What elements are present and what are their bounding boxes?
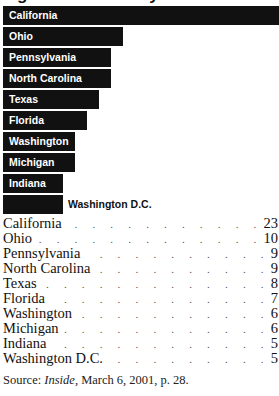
- bar-label: Pennsylvania: [9, 51, 76, 63]
- list-item-name: Texas: [3, 276, 41, 291]
- list-item-name: Florida: [3, 291, 49, 306]
- bar-row: Texas: [3, 90, 279, 109]
- list-item-name: Indiana: [3, 336, 50, 351]
- list-item-value: 7: [270, 291, 278, 306]
- bar-row: North Carolina: [3, 69, 279, 88]
- bar-label: Texas: [9, 93, 38, 105]
- leader-dots: . . . . . . . . . . . . . . . . . . . . …: [66, 217, 263, 231]
- leader-dots: . . . . . . . . . . . . . . . . . . . . …: [107, 352, 270, 366]
- bar-row: Pennsylvania: [3, 48, 279, 67]
- list-item: Indiana. . . . . . . . . . . . . . . . .…: [3, 336, 278, 351]
- list-item-name: Ohio: [3, 231, 36, 246]
- bar-row: California: [3, 6, 279, 25]
- list-item: Washington D.C.. . . . . . . . . . . . .…: [3, 351, 278, 366]
- list-item-name: Washington: [3, 306, 76, 321]
- leader-dots: . . . . . . . . . . . . . . . . . . . . …: [84, 247, 269, 261]
- list-item-value: 23: [263, 216, 279, 231]
- bar-label: Florida: [9, 114, 44, 126]
- list-item-value: 10: [263, 231, 279, 246]
- value-list: California. . . . . . . . . . . . . . . …: [3, 216, 278, 366]
- list-item: Ohio. . . . . . . . . . . . . . . . . . …: [3, 231, 278, 246]
- bar-label: Michigan: [9, 156, 55, 168]
- bar-row: Washington D.C.: [3, 195, 279, 214]
- bar-label: North Carolina: [9, 72, 82, 84]
- leader-dots: . . . . . . . . . . . . . . . . . . . . …: [63, 322, 270, 336]
- bar-label: Washington: [9, 135, 69, 147]
- leader-dots: . . . . . . . . . . . . . . . . . . . . …: [49, 292, 270, 306]
- list-item-value: 9: [270, 261, 278, 276]
- bar-row: Michigan: [3, 153, 279, 172]
- list-item: North Carolina. . . . . . . . . . . . . …: [3, 261, 278, 276]
- list-item-value: 5: [270, 336, 278, 351]
- bar: [3, 195, 63, 214]
- list-item-value: 6: [270, 306, 278, 321]
- leader-dots: . . . . . . . . . . . . . . . . . . . . …: [94, 262, 269, 276]
- bar-label: Washington D.C.: [68, 198, 152, 210]
- bar-row: Ohio: [3, 27, 279, 46]
- bar-row: Florida: [3, 111, 279, 130]
- list-item-name: Michigan: [3, 321, 63, 336]
- list-item: California. . . . . . . . . . . . . . . …: [3, 216, 278, 231]
- bar-label: Indiana: [9, 177, 46, 189]
- list-item-name: Washington D.C.: [3, 351, 107, 366]
- bar-chart: California Ohio Pennsylvania North Carol…: [3, 6, 279, 216]
- list-item-value: 5: [270, 351, 278, 366]
- list-item: Texas. . . . . . . . . . . . . . . . . .…: [3, 276, 278, 291]
- source-publication: Inside: [44, 373, 75, 387]
- list-item: Florida. . . . . . . . . . . . . . . . .…: [3, 291, 278, 306]
- bar-label: Ohio: [9, 30, 33, 42]
- list-item-value: 6: [270, 321, 278, 336]
- list-item-value: 8: [270, 276, 278, 291]
- leader-dots: . . . . . . . . . . . . . . . . . . . . …: [76, 307, 270, 321]
- chart-title: Figure: Charters by State: [2, 0, 205, 5]
- source-suffix: , March 6, 2001, p. 28.: [75, 373, 189, 387]
- bar-row: Washington: [3, 132, 279, 151]
- list-item: Pennsylvania. . . . . . . . . . . . . . …: [3, 246, 278, 261]
- leader-dots: . . . . . . . . . . . . . . . . . . . . …: [36, 232, 263, 246]
- list-item: Michigan. . . . . . . . . . . . . . . . …: [3, 321, 278, 336]
- source-note: Source: Inside, March 6, 2001, p. 28.: [3, 373, 189, 388]
- list-item-value: 9: [270, 246, 278, 261]
- bar-label: California: [9, 9, 57, 21]
- source-prefix: Source:: [3, 373, 44, 387]
- leader-dots: . . . . . . . . . . . . . . . . . . . . …: [50, 337, 269, 351]
- list-item-name: North Carolina: [3, 261, 94, 276]
- list-item-name: Pennsylvania: [3, 246, 84, 261]
- list-item-name: California: [3, 216, 66, 231]
- list-item: Washington. . . . . . . . . . . . . . . …: [3, 306, 278, 321]
- bar-row: Indiana: [3, 174, 279, 193]
- leader-dots: . . . . . . . . . . . . . . . . . . . . …: [41, 277, 270, 291]
